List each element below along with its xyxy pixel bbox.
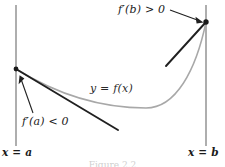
figure-caption: Figure 2.2: [0, 160, 225, 167]
leader-arrow-a: [19, 75, 33, 113]
derivative-at-b-label: f′(b) > 0: [118, 4, 165, 15]
figure-container: f′(b) > 0 f′(a) < 0 y = f(x) x = a x = b…: [0, 0, 225, 167]
derivative-at-a-label: f′(a) < 0: [22, 116, 69, 127]
endpoint-dot-b: [203, 19, 208, 24]
left-boundary-label: x = a: [2, 147, 32, 158]
endpoint-dot-a: [14, 67, 19, 72]
leader-arrow-b: [170, 10, 204, 24]
right-boundary-label: x = b: [188, 147, 219, 158]
function-curve: [16, 22, 206, 108]
function-label: y = f(x): [90, 83, 133, 94]
